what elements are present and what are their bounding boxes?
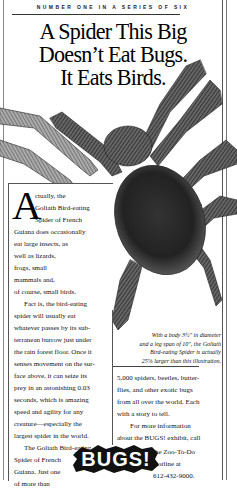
illustration-caption: With a body 3½" in diameter and a leg sp… <box>113 331 221 365</box>
caption-line: and a leg span of 10", the Goliath <box>113 340 221 349</box>
caption-line: With a body 3½" in diameter <box>113 331 221 340</box>
body-line: spider will usually eat <box>14 310 76 322</box>
body-line: Guiana does occasionally <box>14 226 86 238</box>
headline-line-3: It Eats Birds. <box>13 66 214 89</box>
body-line: face above, it can seize its <box>14 370 87 382</box>
body-line: terranean burrow just under <box>14 334 92 346</box>
body-line: from all over the world. Each <box>117 396 199 408</box>
headline: A Spider This Big Doesn’t Eat Bugs. It E… <box>13 20 214 89</box>
headline-line-1: A Spider This Big <box>13 20 214 43</box>
body-line: 5,000 spiders, beetles, butter- <box>117 372 199 384</box>
body-line: Guiana. Just one <box>14 466 60 478</box>
caption-rule <box>113 366 199 367</box>
body-line: with a story to tell. <box>117 408 170 420</box>
kicker-label: NUMBER ONE IN A SERIES OF SIX <box>4 4 222 10</box>
kicker-rule <box>12 14 180 15</box>
body-line: prey in an astonishing 0.03 <box>14 382 90 394</box>
body-line: ctually, the <box>35 190 66 202</box>
caption-line: Bird-eating Spider is actually <box>113 348 221 357</box>
body-line: speed and agility for any <box>14 406 83 418</box>
body-line: flies, and other exotic bugs <box>117 384 193 396</box>
body-line: seconds, which is amazing <box>14 394 89 406</box>
body-line: about the BUGS! exhibit, call <box>117 432 200 444</box>
body-line: Spider of French <box>35 214 82 226</box>
body-line: frogs, small <box>14 262 47 274</box>
body-line: Goliath Bird-eating <box>35 202 90 214</box>
logo-text: BUGS! <box>72 448 160 471</box>
body-line: eat large insects, as <box>14 238 68 250</box>
body-line: Spider of French <box>14 454 61 466</box>
body-line: of more than <box>14 478 50 490</box>
body-line: mammals and, <box>14 274 55 286</box>
body-line: Fact is, the bird-eating <box>24 298 87 310</box>
body-line: For more information <box>130 420 191 432</box>
body-line: largest spider in the world. <box>14 430 89 442</box>
body-line: creature—especially the <box>14 418 82 430</box>
bugs-logo: BUGS! <box>72 444 160 474</box>
caption-line: 25% larger than this illustration. <box>113 357 221 366</box>
body-line: senses movement on the sur- <box>14 358 95 370</box>
body-line: the rain forest floor. Once it <box>14 346 92 358</box>
headline-line-2: Doesn’t Eat Bugs. <box>13 43 214 66</box>
body-line: well as lizards, <box>14 250 56 262</box>
body-line: whatever passes by its sub- <box>14 322 90 334</box>
body-line: of course, small birds. <box>14 286 76 298</box>
